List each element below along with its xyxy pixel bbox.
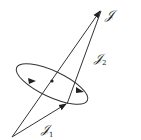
label-j1-subscript: 1 (49, 131, 53, 139)
ellipse-arrow-left-icon (28, 78, 36, 84)
center-dot (50, 79, 53, 82)
vector-diagram: 𝒥 𝒥 2 𝒥 1 (0, 0, 141, 140)
vector-j1 (12, 104, 66, 137)
precession-ellipse (11, 56, 93, 113)
vector-j-total (12, 11, 100, 137)
ellipse-arrow-right-icon (76, 87, 84, 93)
label-j-total: 𝒥 (104, 7, 119, 22)
label-j2-subscript: 2 (102, 59, 106, 67)
